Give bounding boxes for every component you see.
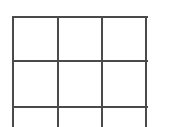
cell-mark	[59, 108, 103, 127]
cell-mark	[59, 18, 103, 62]
cell-mark	[59, 62, 103, 106]
game-board	[12, 16, 146, 127]
board-cell[interactable]	[103, 62, 147, 106]
cell-mark	[14, 62, 58, 106]
board-cell[interactable]	[103, 18, 147, 62]
board-cell[interactable]	[103, 108, 147, 127]
board-cell[interactable]	[14, 108, 58, 127]
cell-mark	[103, 18, 147, 62]
cell-mark	[14, 108, 58, 127]
board-cell[interactable]	[59, 18, 103, 62]
cell-mark	[103, 62, 147, 106]
board-cell[interactable]	[59, 108, 103, 127]
cell-mark	[14, 18, 58, 62]
cell-mark	[103, 108, 147, 127]
board-cell[interactable]	[14, 18, 58, 62]
board-cell[interactable]	[14, 62, 58, 106]
board-cell[interactable]	[59, 62, 103, 106]
